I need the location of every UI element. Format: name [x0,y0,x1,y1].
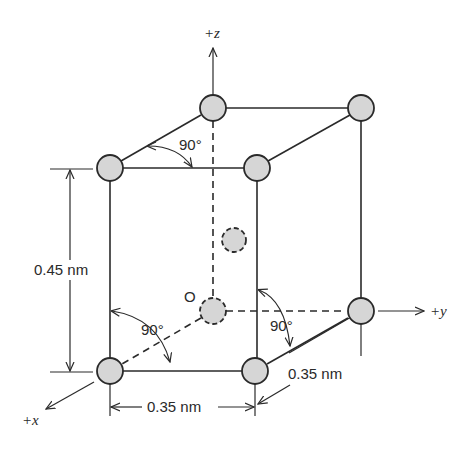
atom-bottom-back-right [348,298,374,324]
angle-left: 90° [112,311,170,362]
width-x-label: 0.35 nm [147,398,201,415]
z-axis-label: +z [204,25,220,41]
atom-top-front-right [244,155,270,181]
angle-left-label: 90° [141,321,164,338]
atom-origin [200,298,226,324]
x-axis: +x [22,382,94,428]
atom-bottom-front-left [97,358,123,384]
width-y-label: 0.35 nm [288,365,342,382]
width-x-dimension: 0.35 nm [110,384,255,416]
angle-right: 90° [259,290,293,346]
origin-label: O [184,288,196,305]
angle-right-label: 90° [270,317,293,334]
y-axis-label: +y [430,303,447,319]
angle-top-label: 90° [179,136,202,153]
x-axis-label: +x [22,412,39,428]
y-axis: +y [378,303,447,319]
atom-top-front-left [97,155,123,181]
height-label: 0.45 nm [34,261,88,278]
atom-top-back-left [200,95,226,121]
z-axis: +z [204,25,220,95]
atom-bottom-front-right [242,358,268,384]
atom-top-back-right [348,95,374,121]
atom-body-center [222,228,246,252]
atoms [97,95,374,384]
unit-cell-diagram: +z +y +x O 0.45 nm [0,0,464,450]
height-dimension: 0.45 nm [34,169,93,372]
